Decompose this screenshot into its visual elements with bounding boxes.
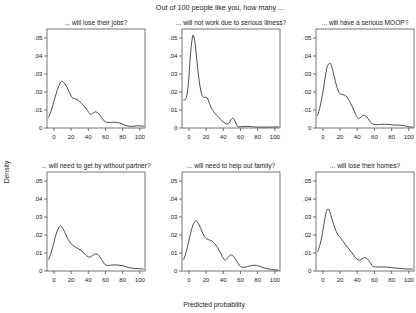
x-tick-label: 100 xyxy=(135,276,146,283)
density-curve-family xyxy=(184,221,279,270)
panel-title-partner: ... will need to get by without partner? xyxy=(41,162,151,170)
x-tick-label: 60 xyxy=(237,276,244,283)
plot-frame xyxy=(316,29,414,128)
x-tick-label: 60 xyxy=(371,133,378,140)
y-tick-label: .03 xyxy=(303,213,312,220)
plot-frame xyxy=(316,172,414,271)
y-tick-label: .02 xyxy=(303,231,312,238)
x-tick-label: 20 xyxy=(337,133,344,140)
panel-illness: ... will not work due to serious illness… xyxy=(169,19,286,140)
y-tick-label: .01 xyxy=(169,249,178,256)
y-tick-label: .01 xyxy=(303,249,312,256)
plot-frame xyxy=(182,29,280,128)
y-tick-label: .05 xyxy=(169,34,178,41)
panel-title-family: ... will need to help out family? xyxy=(187,162,276,170)
x-tick-label: 0 xyxy=(187,276,191,283)
y-tick-label: .05 xyxy=(303,34,312,41)
plot-frame xyxy=(47,29,145,128)
density-curve-illness xyxy=(184,35,279,127)
y-tick-label: .02 xyxy=(303,88,312,95)
y-tick-label: .01 xyxy=(34,249,43,256)
x-tick-label: 0 xyxy=(321,276,325,283)
x-tick-label: 20 xyxy=(68,133,75,140)
x-tick-label: 80 xyxy=(254,133,261,140)
y-axis-title: Density xyxy=(3,160,11,183)
x-tick-label: 100 xyxy=(404,276,415,283)
y-tick-label: .01 xyxy=(303,106,312,113)
y-tick-label: .04 xyxy=(34,52,43,59)
x-tick-label: 60 xyxy=(371,276,378,283)
y-tick-label: .04 xyxy=(303,195,312,202)
x-tick-label: 0 xyxy=(52,133,56,140)
density-curve-homes xyxy=(318,209,413,269)
x-tick-label: 60 xyxy=(102,276,109,283)
panels-container: ... will lose their jobs?0.01.02.03.04.0… xyxy=(34,19,415,283)
x-tick-label: 100 xyxy=(135,133,146,140)
density-curve-jobs xyxy=(49,81,144,126)
panel-title-jobs: ... will lose their jobs? xyxy=(65,19,128,27)
panel-homes: ... will lose their homes?0.01.02.03.04.… xyxy=(303,162,415,283)
y-tick-label: .04 xyxy=(303,52,312,59)
x-tick-label: 100 xyxy=(270,133,281,140)
x-tick-label: 100 xyxy=(404,133,415,140)
panel-family: ... will need to help out family?0.01.02… xyxy=(169,162,281,283)
y-tick-label: .05 xyxy=(34,34,43,41)
density-curve-moop xyxy=(318,63,413,127)
y-tick-label: .03 xyxy=(169,213,178,220)
y-tick-label: .02 xyxy=(34,231,43,238)
density-figure: Out of 100 people like you, how many ...… xyxy=(0,0,416,313)
y-tick-label: 0 xyxy=(308,124,312,131)
x-tick-label: 100 xyxy=(270,276,281,283)
y-tick-label: .03 xyxy=(34,213,43,220)
y-tick-label: .02 xyxy=(34,88,43,95)
x-tick-label: 40 xyxy=(220,276,227,283)
x-tick-label: 40 xyxy=(354,133,361,140)
x-tick-label: 20 xyxy=(68,276,75,283)
panel-title-homes: ... will lose their homes? xyxy=(330,162,401,169)
x-tick-label: 80 xyxy=(119,276,126,283)
panel-moop: ... will have a serious MOOP?0.01.02.03.… xyxy=(303,19,415,140)
figure-title: Out of 100 people like you, how many ... xyxy=(156,3,284,12)
density-curve-partner xyxy=(49,226,144,269)
panel-title-moop: ... will have a serious MOOP? xyxy=(322,19,409,26)
plot-frame xyxy=(47,172,145,271)
x-tick-label: 20 xyxy=(203,133,210,140)
x-tick-label: 60 xyxy=(237,133,244,140)
panel-partner: ... will need to get by without partner?… xyxy=(34,162,151,283)
y-tick-label: .02 xyxy=(169,88,178,95)
x-tick-label: 0 xyxy=(52,276,56,283)
y-tick-label: .04 xyxy=(169,195,178,202)
x-tick-label: 40 xyxy=(85,276,92,283)
y-tick-label: .01 xyxy=(34,106,43,113)
y-tick-label: .05 xyxy=(34,177,43,184)
y-tick-label: 0 xyxy=(174,267,178,274)
x-tick-label: 80 xyxy=(119,133,126,140)
panel-jobs: ... will lose their jobs?0.01.02.03.04.0… xyxy=(34,19,146,140)
y-tick-label: .03 xyxy=(34,70,43,77)
y-tick-label: .01 xyxy=(169,106,178,113)
y-tick-label: 0 xyxy=(174,124,178,131)
x-tick-label: 80 xyxy=(388,276,395,283)
y-tick-label: .04 xyxy=(34,195,43,202)
x-tick-label: 40 xyxy=(354,276,361,283)
x-tick-label: 20 xyxy=(203,276,210,283)
x-tick-label: 40 xyxy=(85,133,92,140)
x-tick-label: 80 xyxy=(254,276,261,283)
x-tick-label: 80 xyxy=(388,133,395,140)
y-tick-label: .04 xyxy=(169,52,178,59)
x-tick-label: 0 xyxy=(321,133,325,140)
x-tick-label: 20 xyxy=(337,276,344,283)
panel-title-illness: ... will not work due to serious illness… xyxy=(176,19,287,26)
y-tick-label: .05 xyxy=(169,177,178,184)
y-tick-label: 0 xyxy=(39,124,43,131)
y-tick-label: .03 xyxy=(303,70,312,77)
x-axis-title: Predicted probability xyxy=(183,301,245,309)
y-tick-label: .03 xyxy=(169,70,178,77)
x-tick-label: 60 xyxy=(102,133,109,140)
y-tick-label: .05 xyxy=(303,177,312,184)
y-tick-label: 0 xyxy=(308,267,312,274)
y-tick-label: .02 xyxy=(169,231,178,238)
x-tick-label: 40 xyxy=(220,133,227,140)
y-tick-label: 0 xyxy=(39,267,43,274)
x-tick-label: 0 xyxy=(187,133,191,140)
